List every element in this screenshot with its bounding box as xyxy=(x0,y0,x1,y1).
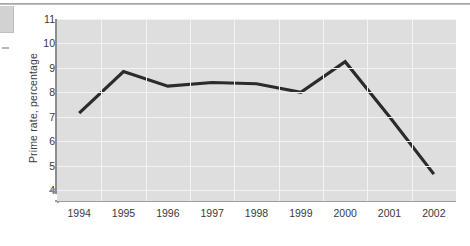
y-tick-label: 11 xyxy=(33,14,55,25)
y-tick-label: 6 xyxy=(33,136,55,147)
gridline-vertical xyxy=(234,19,235,201)
top-divider-rule xyxy=(0,3,470,5)
x-tick-label: 2002 xyxy=(404,207,464,219)
gridline-vertical xyxy=(146,19,147,201)
gridline-horizontal xyxy=(57,43,456,44)
page-corner-artifact xyxy=(0,6,14,33)
gridline-horizontal xyxy=(57,117,456,118)
gridline-vertical xyxy=(367,19,368,201)
page-margin-mark xyxy=(2,47,9,49)
gridline-vertical xyxy=(279,19,280,201)
gridline-horizontal xyxy=(57,166,456,167)
y-tick-label: 7 xyxy=(33,112,55,123)
gridline-vertical xyxy=(190,19,191,201)
gridline-horizontal xyxy=(57,141,456,142)
gridline-horizontal xyxy=(57,68,456,69)
gridline-horizontal xyxy=(57,19,456,20)
gridline-vertical xyxy=(101,19,102,201)
plot-area xyxy=(57,19,456,201)
y-tick-label: 10 xyxy=(33,38,55,49)
y-tick-label: 5 xyxy=(33,161,55,172)
y-tick-label: 9 xyxy=(33,63,55,74)
y-tick-label: 8 xyxy=(33,87,55,98)
chart-figure: Prime rate, percentage 4567891011 199419… xyxy=(0,0,470,246)
gridline-horizontal xyxy=(57,190,456,191)
gridline-vertical xyxy=(412,19,413,201)
gridline-vertical xyxy=(323,19,324,201)
gridline-horizontal xyxy=(57,92,456,93)
line-series-prime-rate xyxy=(57,19,456,201)
